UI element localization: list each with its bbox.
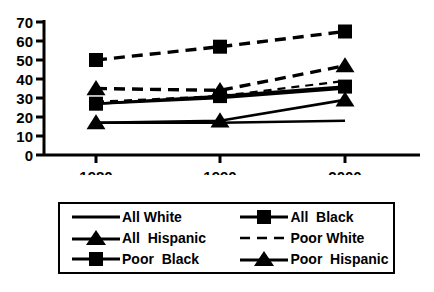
legend-symbol-square-line [70, 250, 122, 268]
legend-symbol-plain-line [70, 208, 122, 226]
legend-item-label: All White [122, 209, 182, 225]
x-axis-tick-labels: 198019902000 [79, 168, 361, 175]
series-marker-triangle [336, 91, 355, 106]
y-tick-label: 60 [16, 33, 33, 50]
legend-item[interactable]: Poor Hispanic [230, 250, 389, 268]
y-tick-label: 30 [16, 90, 33, 107]
figure-caption [0, 283, 434, 292]
legend-row: Poor BlackPoor Hispanic [64, 249, 389, 270]
legend-symbol-triangle-line [238, 250, 290, 268]
y-tick-label: 50 [16, 52, 33, 69]
y-tick-label: 0 [25, 147, 33, 164]
legend-symbol-dashed-line [238, 229, 290, 247]
series-marker-square [89, 97, 103, 111]
x-tick-label: 2000 [328, 168, 361, 175]
chart-legend: All WhiteAll BlackAll HispanicPoor White… [58, 202, 395, 274]
legend-symbol-triangle-line [70, 229, 122, 247]
legend-item[interactable]: Poor Black [64, 250, 230, 268]
series-marker-square [338, 25, 352, 39]
legend-row: All HispanicPoor White [64, 227, 389, 248]
y-tick-label: 70 [16, 14, 33, 31]
legend-item[interactable]: All Black [230, 208, 389, 226]
legend-symbol-square-line [238, 208, 290, 226]
chart-figure: 010203040506070 198019902000 All WhiteAl… [0, 0, 434, 292]
line-chart-svg: 010203040506070 198019902000 [0, 0, 434, 175]
legend-item-label: All Black [290, 209, 353, 225]
legend-item[interactable]: All White [64, 208, 230, 226]
x-tick-label: 1990 [203, 168, 236, 175]
legend-row: All WhiteAll Black [64, 206, 389, 227]
series-marker-square [89, 53, 103, 67]
series-marker-triangle [336, 57, 355, 72]
legend-item-label: All Hispanic [122, 230, 206, 246]
legend-item-label: Poor Black [122, 251, 199, 267]
legend-item-label: Poor Hispanic [290, 251, 388, 267]
legend-item-label: Poor White [290, 230, 364, 246]
series-marker-square [213, 40, 227, 54]
y-tick-label: 40 [16, 71, 33, 88]
legend-item[interactable]: All Hispanic [64, 229, 230, 247]
y-axis-tick-labels: 010203040506070 [16, 14, 33, 164]
y-tick-label: 20 [16, 109, 33, 126]
plot-area: 010203040506070 198019902000 [0, 0, 434, 175]
x-tick-label: 1980 [79, 168, 112, 175]
y-tick-label: 10 [16, 128, 33, 145]
series-markers [87, 25, 355, 130]
legend-item[interactable]: Poor White [230, 229, 389, 247]
